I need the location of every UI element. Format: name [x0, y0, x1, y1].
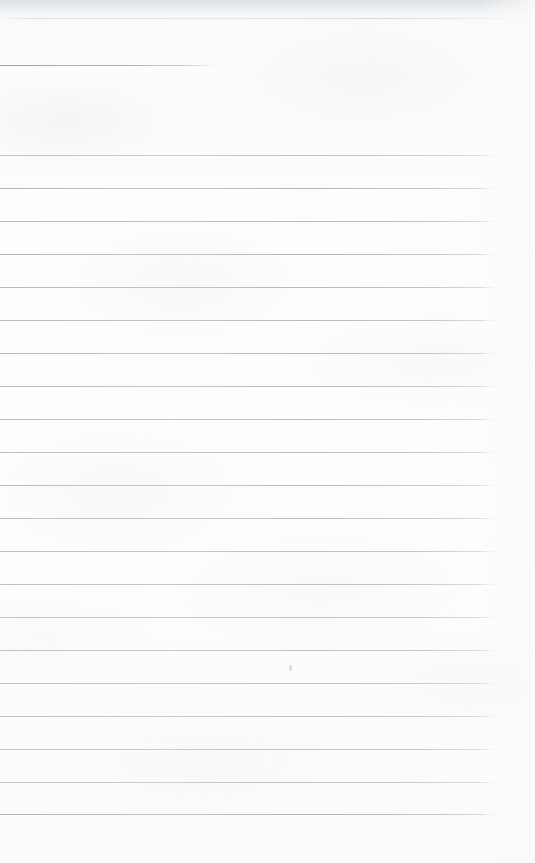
scanned-page	[0, 0, 535, 863]
paper-background	[0, 0, 535, 863]
